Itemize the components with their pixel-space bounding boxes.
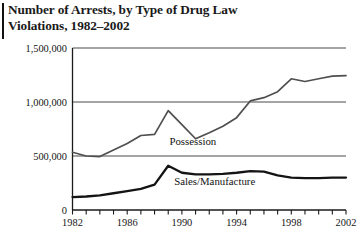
x-axis-label-1998: 1998 [281,217,302,228]
page-title-line-1: Number of Arrests, by Type of Drug Law [8,2,348,18]
chart-figure: Number of Arrests, by Type of Drug Law V… [0,0,360,245]
line-chart-svg: 0500,0001,000,0001,500,000 1982198619901… [0,38,360,245]
x-axis-label-2002: 2002 [336,217,357,228]
x-axis-label-1990: 1990 [172,217,193,228]
x-axis-label-1994: 1994 [226,217,248,228]
series-inline-labels-group: PossessionSales/Manufacture [169,135,255,187]
x-tick-marks-group [73,210,347,215]
y-axis-label-1000000: 1,000,000 [25,97,67,108]
y-axis-label-1500000: 1,500,000 [25,43,67,54]
page-title-line-2: Violations, 1982–2002 [8,18,348,34]
x-axis-label-1982: 1982 [62,217,83,228]
x-axis-labels-group: 198219861990199419982002 [62,217,356,228]
series-label-sales-manufacture: Sales/Manufacture [174,175,255,187]
series-label-possession: Possession [169,135,216,147]
title-side-rule [2,3,4,39]
chart-plot-area: 0500,0001,000,0001,500,000 1982198619901… [0,38,360,245]
y-axis-label-500000: 500,000 [33,151,67,162]
x-axis-label-1986: 1986 [117,217,138,228]
y-axis-label-0: 0 [62,205,67,216]
y-axis-labels-group: 0500,0001,000,0001,500,000 [25,43,67,216]
page-title: Number of Arrests, by Type of Drug Law V… [8,2,348,33]
